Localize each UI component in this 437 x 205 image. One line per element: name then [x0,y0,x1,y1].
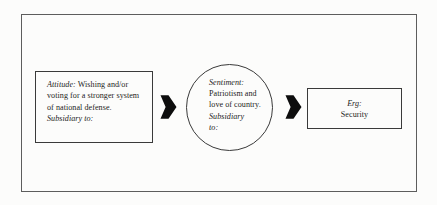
attitude-label-term: Attitude: [47,80,76,89]
erg-label-term: Erg: [347,99,362,108]
sentiment-footer-term-line2: to: [209,123,218,132]
arrow-right-icon-sentiment-to-erg [285,94,302,120]
sentiment-node: Sentiment:Patriotism and love of country… [186,64,273,151]
arrow-right-icon-attitude-to-sentiment [160,94,177,120]
sentiment-body-text: Patriotism and love of country. [209,89,261,109]
attitude-footer-term: Subsidiary to: [47,114,93,123]
erg-node-text: Erg:Security [308,98,401,121]
sentiment-label-term: Sentiment: [209,78,244,87]
attitude-node: Attitude: Wishing and/or voting for a st… [35,71,153,143]
diagram-page: Attitude: Wishing and/or voting for a st… [0,0,437,205]
sentiment-node-text: Sentiment:Patriotism and love of country… [209,77,265,133]
attitude-node-text: Attitude: Wishing and/or voting for a st… [47,79,147,125]
erg-node: Erg:Security [307,88,402,129]
erg-body-text: Security [341,110,368,119]
sentiment-footer-term-line1: Subsidiary [209,112,244,121]
